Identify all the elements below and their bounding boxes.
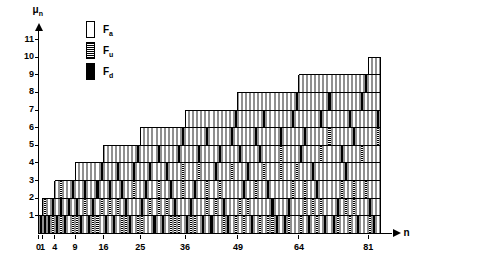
staircase-riser — [103, 145, 104, 163]
x-axis-tick-label: 64 — [287, 242, 311, 252]
staircase-riser — [140, 128, 141, 146]
x-axis-tick-label: 81 — [356, 242, 380, 252]
legend-swatch-a — [86, 21, 95, 38]
x-axis-tick — [42, 235, 43, 239]
y-axis-tick-label: 1 — [8, 210, 34, 220]
staircase-riser — [185, 110, 186, 128]
grid-line-horizontal — [368, 57, 380, 58]
x-axis-line — [38, 233, 392, 234]
legend-label-subscript: u — [109, 51, 113, 58]
y-axis-tick-label: 3 — [8, 175, 34, 185]
x-axis-tick — [185, 235, 186, 239]
y-axis-tick-label: 4 — [8, 157, 34, 167]
grid-line-horizontal — [39, 215, 381, 216]
legend-swatch-u — [86, 42, 95, 59]
staircase-riser — [368, 57, 369, 75]
y-axis-name-subscript: n — [39, 10, 43, 17]
x-axis-tick — [237, 235, 238, 239]
y-axis-tick — [35, 180, 39, 181]
y-axis-tick-label: 8 — [8, 86, 34, 96]
legend-label-u: Fu — [103, 45, 113, 58]
x-axis-name: n — [404, 227, 410, 238]
y-axis-tick — [35, 92, 39, 93]
y-axis-tick-label: 5 — [8, 139, 34, 149]
x-axis-tick — [368, 235, 369, 239]
y-axis-tick — [35, 39, 39, 40]
y-axis-tick-label: 6 — [8, 122, 34, 132]
y-axis-line — [38, 30, 39, 234]
x-axis-tick — [54, 235, 55, 239]
grid-line-horizontal — [185, 110, 380, 111]
y-axis-tick — [35, 215, 39, 216]
staircase-riser — [54, 181, 55, 199]
y-axis-arrow — [35, 23, 43, 31]
legend-label-subscript: a — [109, 30, 113, 37]
grid-line-horizontal — [75, 162, 380, 163]
x-axis-arrow — [393, 229, 401, 237]
y-axis-tick — [35, 57, 39, 58]
x-axis-tick — [38, 235, 39, 239]
legend-label-a: Fa — [103, 24, 113, 37]
x-axis-tick-label: 49 — [226, 242, 250, 252]
staircase-riser — [75, 163, 76, 181]
grid-line-horizontal — [55, 180, 381, 181]
y-axis-tick-label: 7 — [8, 104, 34, 114]
grid-line-horizontal — [140, 127, 380, 128]
grid-line-horizontal — [238, 92, 380, 93]
y-axis-tick — [35, 198, 39, 199]
x-axis-tick — [75, 235, 76, 239]
staircase-riser — [237, 92, 238, 110]
figure-canvas: 12345678910110149162536496481μnnFaFuFd — [0, 0, 495, 263]
y-axis-tick-label: 10 — [8, 51, 34, 61]
y-axis-tick — [35, 145, 39, 146]
x-axis-tick — [298, 235, 299, 239]
x-axis-tick-label: 16 — [92, 242, 116, 252]
grid-line-horizontal — [104, 145, 381, 146]
x-axis-tick-label: 9 — [63, 242, 87, 252]
y-axis-name: μn — [33, 4, 43, 17]
staircase-riser — [298, 75, 299, 93]
grid-line-horizontal — [43, 198, 381, 199]
y-axis-tick — [35, 74, 39, 75]
y-axis-tick — [35, 127, 39, 128]
legend-swatch-d — [86, 63, 95, 80]
legend-label-d: Fd — [103, 66, 113, 79]
x-axis-tick-label: 25 — [128, 242, 152, 252]
x-axis-tick-label: 36 — [173, 242, 197, 252]
y-axis-tick — [35, 110, 39, 111]
staircase-riser — [42, 198, 43, 216]
x-axis-tick — [140, 235, 141, 239]
y-axis-tick-label: 9 — [8, 69, 34, 79]
y-axis-tick-label: 2 — [8, 192, 34, 202]
y-axis-tick — [35, 162, 39, 163]
x-axis-tick — [103, 235, 104, 239]
y-axis-tick-label: 11 — [8, 34, 34, 44]
staircase-right-edge — [380, 57, 381, 233]
legend-label-subscript: d — [109, 72, 113, 79]
